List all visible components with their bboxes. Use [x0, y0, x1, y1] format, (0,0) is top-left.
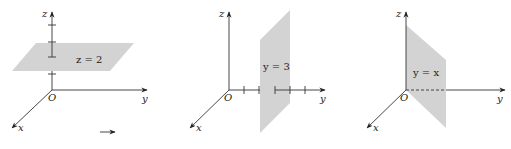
z-axis-label: z [395, 8, 402, 19]
panel-y-equals-x: z y x O y = x [367, 8, 505, 133]
origin-label: O [224, 92, 232, 103]
figure-canvas: z y x O z = 2 z y x O y = 3 z y x O y = … [0, 0, 511, 149]
y-axis-label: y [496, 93, 503, 104]
x-axis-label: x [18, 122, 24, 133]
plane-z-2 [12, 43, 134, 71]
x-axis-label: x [373, 122, 379, 133]
y-axis-label: y [141, 93, 148, 104]
origin-label: O [400, 92, 408, 103]
z-axis-label: z [218, 8, 225, 19]
plane-equation-label: y = x [412, 67, 439, 78]
panel-y-equals-3: z y x O y = 3 [190, 8, 326, 133]
panel-z-equals-2: z y x O z = 2 [12, 8, 148, 133]
origin-label: O [48, 92, 56, 103]
x-axis-label: x [196, 122, 202, 133]
z-axis-label: z [41, 8, 48, 19]
plane-equation-label: y = 3 [262, 61, 290, 72]
plane-equation-label: z = 2 [76, 54, 102, 65]
y-axis-label: y [319, 93, 326, 104]
